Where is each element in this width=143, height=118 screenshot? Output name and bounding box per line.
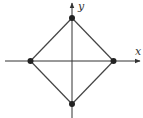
vertex-top [69, 15, 75, 21]
vertex-right [111, 58, 117, 64]
edge-right-bottom [72, 61, 114, 104]
vertex-bottom [69, 101, 75, 107]
edge-left-top [31, 18, 73, 61]
edge-bottom-left [31, 61, 73, 104]
edge-top-right [72, 18, 114, 61]
vertex-left [28, 58, 34, 64]
x-axis-label: x [135, 45, 142, 58]
diamond-diagram: x y [0, 0, 143, 118]
y-axis-label: y [77, 0, 85, 13]
